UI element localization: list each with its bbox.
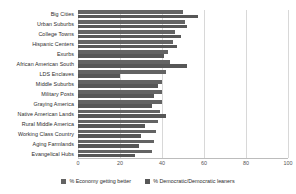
bar-group <box>78 119 288 128</box>
legend-swatch-icon <box>145 179 150 184</box>
bar <box>78 10 183 14</box>
bar <box>78 15 198 19</box>
bar <box>78 150 152 154</box>
bar-group <box>78 40 288 49</box>
category-label: Evangelical Hubs <box>0 149 74 158</box>
bar <box>78 144 139 148</box>
bar-group <box>78 110 288 119</box>
bar <box>78 60 170 64</box>
bar-group <box>78 139 288 148</box>
bar <box>78 74 120 78</box>
category-label: Aging Farmlands <box>0 139 74 148</box>
bar <box>78 20 185 24</box>
bar-group <box>78 149 288 158</box>
bar <box>78 110 160 114</box>
bar <box>78 124 145 128</box>
bar <box>78 45 177 49</box>
category-label: African American South <box>0 60 74 69</box>
category-label: Graying America <box>0 100 74 109</box>
bar-group <box>78 20 288 29</box>
bar <box>78 140 154 144</box>
x-tick-label: 100 <box>284 160 293 166</box>
bar-group <box>78 70 288 79</box>
bar-group <box>78 129 288 138</box>
bar <box>78 104 152 108</box>
category-label: Middle Suburbs <box>0 80 74 89</box>
category-label: Rural Middle America <box>0 119 74 128</box>
bar-group <box>78 10 288 19</box>
grouped-bar-chart: Big CitiesUrban SuburbsCollege TownsHisp… <box>0 0 296 194</box>
bar <box>78 30 175 34</box>
category-label: Exurbs <box>0 50 74 59</box>
bar <box>78 120 158 124</box>
bar-group <box>78 80 288 89</box>
bar <box>78 84 158 88</box>
chart-legend: % Economy getting better% Democratic/Dem… <box>0 178 296 184</box>
category-label: Working Class Country <box>0 129 74 138</box>
bar <box>78 90 162 94</box>
bar <box>78 40 173 44</box>
x-tick-label: 0 <box>77 160 80 166</box>
category-label: LDS Enclaves <box>0 70 74 79</box>
bar-group <box>78 60 288 69</box>
legend-item: % Democratic/Democratic leaners <box>145 178 234 184</box>
category-label: Big Cities <box>0 10 74 19</box>
bar <box>78 100 162 104</box>
gridline <box>288 10 289 158</box>
bar <box>78 25 187 29</box>
bar-group <box>78 100 288 109</box>
legend-label: % Economy getting better <box>69 178 131 184</box>
bar <box>78 70 166 74</box>
bar <box>78 94 154 98</box>
bar <box>78 154 135 158</box>
legend-swatch-icon <box>61 179 66 184</box>
x-tick-label: 80 <box>243 160 249 166</box>
x-tick-label: 20 <box>117 160 123 166</box>
category-label: Urban Suburbs <box>0 20 74 29</box>
bar <box>78 130 156 134</box>
category-label: Hispanic Centers <box>0 40 74 49</box>
bar <box>78 114 166 118</box>
plot-area <box>78 10 288 158</box>
bar <box>78 64 187 68</box>
bar <box>78 80 162 84</box>
bar-rows <box>78 10 288 158</box>
category-axis-labels: Big CitiesUrban SuburbsCollege TownsHisp… <box>0 10 74 158</box>
category-label: Native American Lands <box>0 110 74 119</box>
x-axis-tick-labels: 020406080100 <box>78 160 288 170</box>
category-label: Military Posts <box>0 90 74 99</box>
bar-group <box>78 50 288 59</box>
legend-item: % Economy getting better <box>61 178 131 184</box>
x-tick-label: 60 <box>201 160 207 166</box>
x-tick-label: 40 <box>159 160 165 166</box>
bar <box>78 35 181 39</box>
bar <box>78 54 164 58</box>
bar-group <box>78 90 288 99</box>
bar <box>78 134 141 138</box>
category-label: College Towns <box>0 30 74 39</box>
legend-label: % Democratic/Democratic leaners <box>153 178 234 184</box>
bar-group <box>78 30 288 39</box>
bar <box>78 50 168 54</box>
x-axis-line <box>78 158 288 159</box>
